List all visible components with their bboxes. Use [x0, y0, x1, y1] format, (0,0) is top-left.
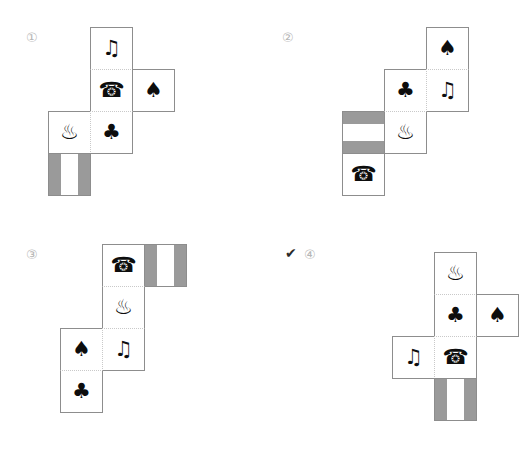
option-4-face-phone: ☎ [434, 336, 477, 379]
spade-icon: ♠ [72, 339, 91, 360]
option-4-face-note: ♫ [392, 336, 435, 379]
stripe-pattern-icon [49, 154, 90, 195]
option-2-face-note: ♫ [426, 69, 469, 112]
option-4-face-spade: ♠ [476, 294, 519, 337]
option-2-face-striped [342, 111, 385, 154]
option-4-face-striped [434, 378, 477, 421]
phone-icon: ☎ [110, 255, 136, 276]
option-1-face-onsen: ♨ [48, 111, 91, 154]
option-1-face-phone: ☎ [90, 69, 133, 112]
phone-icon: ☎ [98, 80, 124, 101]
option-1-label: ① [26, 31, 38, 44]
option-3-face-striped [144, 244, 187, 287]
option-2-face-phone: ☎ [342, 153, 385, 196]
note-icon: ♫ [102, 38, 121, 59]
option-3-face-spade: ♠ [60, 328, 103, 371]
onsen-icon: ♨ [446, 263, 465, 284]
club-icon: ♣ [102, 122, 121, 143]
spade-icon: ♠ [438, 38, 457, 59]
phone-icon: ☎ [350, 164, 376, 185]
option-1-face-club: ♣ [90, 111, 133, 154]
club-icon: ♣ [446, 305, 465, 326]
option-2-face-club: ♣ [384, 69, 427, 112]
note-icon: ♫ [404, 347, 423, 368]
stripe-pattern-icon [145, 245, 186, 286]
option-3-face-club: ♣ [60, 370, 103, 413]
onsen-icon: ♨ [114, 297, 133, 318]
onsen-icon: ♨ [60, 122, 79, 143]
spade-icon: ♠ [144, 80, 163, 101]
option-3-face-note: ♫ [102, 328, 145, 371]
option-4-face-onsen: ♨ [434, 252, 477, 295]
spade-icon: ♠ [488, 305, 507, 326]
option-2-face-onsen: ♨ [384, 111, 427, 154]
option-3-face-phone: ☎ [102, 244, 145, 287]
option-1-face-striped [48, 153, 91, 196]
option-3-label: ③ [26, 248, 38, 261]
club-icon: ♣ [396, 80, 415, 101]
option-4-label: ④ [304, 248, 316, 261]
note-icon: ♫ [438, 80, 457, 101]
note-icon: ♫ [114, 339, 133, 360]
option-1-face-note: ♫ [90, 27, 133, 70]
stripe-pattern-icon [343, 112, 384, 153]
option-3-face-onsen: ♨ [102, 286, 145, 329]
checkmark-icon: ✔ [285, 246, 297, 260]
club-icon: ♣ [72, 381, 91, 402]
onsen-icon: ♨ [396, 122, 415, 143]
option-2-face-spade: ♠ [426, 27, 469, 70]
option-4-face-club: ♣ [434, 294, 477, 337]
stripe-pattern-icon [435, 379, 476, 420]
option-2-label: ② [282, 31, 294, 44]
phone-icon: ☎ [442, 347, 468, 368]
option-1-face-spade: ♠ [132, 69, 175, 112]
